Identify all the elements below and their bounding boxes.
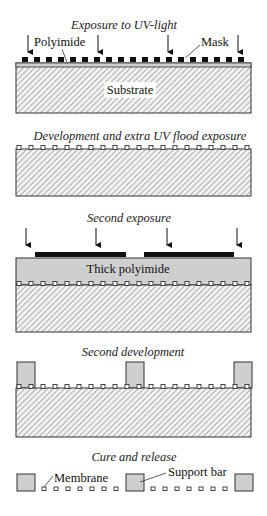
step-4-title: Second development <box>82 345 185 359</box>
mask-label: Mask <box>201 35 230 49</box>
thick-polyimide-label: Thick polyimide <box>87 262 170 276</box>
step-1-exposure: Exposure to UV-light Polyimide Mask Subs… <box>16 18 251 113</box>
mask-bar <box>35 252 126 257</box>
membrane-label: Membrane <box>54 471 109 485</box>
membrane-leader <box>44 476 53 487</box>
substrate <box>16 285 251 332</box>
polyimide-layer <box>16 63 251 67</box>
step-2-title: Development and extra UV flood exposure <box>33 129 247 143</box>
step-3-second-exposure: Second exposure Thick polyimide <box>16 211 251 332</box>
step-4-second-development: Second development <box>16 345 252 437</box>
support-bar <box>126 474 144 491</box>
support-bar <box>17 474 35 491</box>
mask-bar <box>144 252 234 257</box>
substrate <box>16 388 251 437</box>
step-3-title: Second exposure <box>87 211 171 225</box>
substrate <box>16 149 251 196</box>
step-5-cure-release: Cure and release Membrane Support bar <box>17 450 253 491</box>
substrate-label: Substrate <box>107 83 154 97</box>
step-5-title: Cure and release <box>91 450 177 464</box>
support-bar-label: Support bar <box>168 465 228 479</box>
process-diagram: Exposure to UV-light Polyimide Mask Subs… <box>0 0 267 516</box>
polyimide-label: Polyimide <box>34 35 86 49</box>
mask-leader <box>185 45 200 58</box>
uv-arrows <box>26 228 237 245</box>
step-2-development: Development and extra UV flood exposure <box>16 129 251 196</box>
support-bar <box>235 474 253 491</box>
step-1-title: Exposure to UV-light <box>70 18 177 32</box>
mask-squares <box>22 57 244 62</box>
